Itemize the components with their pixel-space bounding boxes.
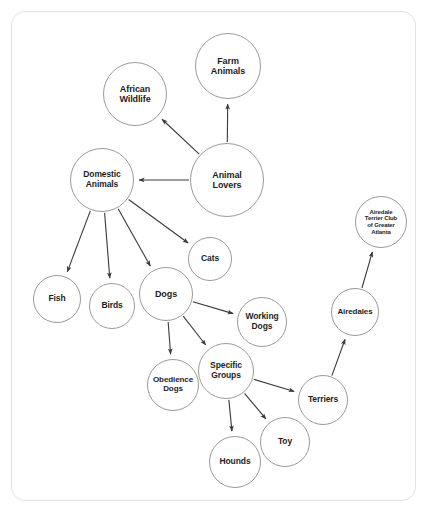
node-atc_atlanta[interactable]: Airedale Terrier Club of Greater Atlanta	[355, 196, 407, 248]
concept-map-page: Farm AnimalsAfrican WildlifeAnimal Lover…	[0, 0, 429, 517]
edge-dogs-to-working_dogs	[193, 302, 233, 314]
edge-airedales-to-atc_atlanta	[362, 252, 372, 288]
edge-animal_lovers-to-african_wildlife	[162, 119, 199, 154]
node-label-atc_atlanta: Airedale Terrier Club of Greater Atlanta	[362, 209, 400, 236]
node-label-dogs: Dogs	[152, 289, 180, 299]
node-label-animal_lovers: Animal Lovers	[209, 170, 244, 190]
node-domestic_animals[interactable]: Domestic Animals	[70, 148, 134, 212]
node-label-working_dogs: Working Dogs	[242, 312, 281, 331]
node-label-birds: Birds	[98, 301, 125, 311]
edge-domestic_animals-to-birds	[105, 213, 110, 278]
node-label-toy: Toy	[275, 437, 295, 447]
node-label-terriers: Terriers	[305, 395, 341, 405]
edge-specific_groups-to-terriers	[254, 379, 294, 391]
node-african_wildlife[interactable]: African Wildlife	[103, 62, 167, 126]
node-farm_animals[interactable]: Farm Animals	[195, 33, 261, 99]
node-specific_groups[interactable]: Specific Groups	[198, 343, 254, 399]
edge-dogs-to-obedience_dogs	[168, 322, 170, 354]
node-animal_lovers[interactable]: Animal Lovers	[190, 143, 264, 217]
edge-specific_groups-to-hounds	[229, 400, 232, 431]
node-label-specific_groups: Specific Groups	[207, 361, 245, 380]
edge-dogs-to-specific_groups	[183, 316, 206, 345]
node-airedales[interactable]: Airedales	[331, 288, 379, 336]
node-hounds[interactable]: Hounds	[209, 436, 261, 488]
node-label-domestic_animals: Domestic Animals	[80, 170, 123, 189]
node-terriers[interactable]: Terriers	[298, 375, 348, 425]
node-toy[interactable]: Toy	[260, 417, 310, 467]
node-label-african_wildlife: African Wildlife	[116, 84, 153, 104]
node-label-fish: Fish	[45, 294, 68, 304]
edge-domestic_animals-to-cats	[129, 199, 189, 243]
node-label-hounds: Hounds	[216, 457, 253, 467]
edge-specific_groups-to-toy	[245, 393, 266, 419]
node-label-airedales: Airedales	[334, 308, 375, 317]
node-obedience_dogs[interactable]: Obedience Dogs	[147, 359, 199, 411]
edge-domestic_animals-to-fish	[67, 211, 90, 272]
node-label-obedience_dogs: Obedience Dogs	[150, 376, 196, 394]
node-label-farm_animals: Farm Animals	[208, 56, 248, 76]
node-cats[interactable]: Cats	[188, 237, 232, 281]
edge-domestic_animals-to-dogs	[118, 209, 150, 266]
node-fish[interactable]: Fish	[33, 275, 81, 323]
node-working_dogs[interactable]: Working Dogs	[237, 297, 287, 347]
node-label-cats: Cats	[198, 254, 222, 264]
node-birds[interactable]: Birds	[89, 283, 135, 329]
edge-terriers-to-airedales	[332, 339, 345, 375]
node-dogs[interactable]: Dogs	[139, 267, 193, 321]
